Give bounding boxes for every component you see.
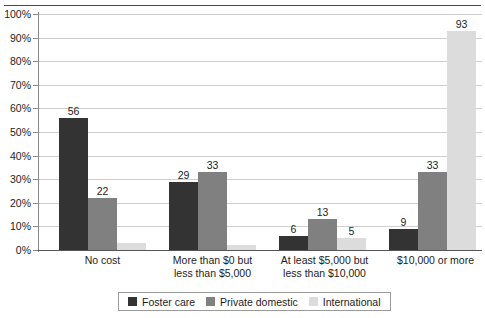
bar-value-foster-care-under-5000: 29 <box>178 169 190 181</box>
bar-value-private-domestic-10000-or-more: 33 <box>427 159 439 171</box>
x-axis-label-5000-to-10000: At least $5,000 but less than $10,000 <box>263 254 386 279</box>
y-tick-mark-10 <box>33 226 38 227</box>
y-tick-mark-40 <box>33 156 38 157</box>
y-tick-label-60: 60% <box>10 102 31 114</box>
x-axis-label-under-5000-line1: More than $0 but <box>154 254 271 267</box>
bar-private-domestic-5000-to-10000: 13 <box>308 219 337 250</box>
y-tick-label-70: 70% <box>10 79 31 91</box>
bar-group-5000-to-10000: 6 13 5 <box>279 14 366 250</box>
legend-label-foster-care: Foster care <box>142 296 195 308</box>
y-tick-mark-80 <box>33 61 38 62</box>
legend-swatch-private-domestic-icon <box>206 297 215 306</box>
bar-international-5000-to-10000: 5 <box>337 238 366 250</box>
bars-layer: 56 22 29 33 <box>39 14 482 250</box>
x-axis-label-no-cost-line1: No cost <box>44 254 161 267</box>
bar-foster-care-10000-or-more: 9 <box>389 229 418 250</box>
legend-item-foster-care[interactable]: Foster care <box>128 296 195 308</box>
y-tick-mark-50 <box>33 132 38 133</box>
bar-value-international-5000-to-10000: 5 <box>349 225 355 237</box>
bar-value-private-domestic-5000-to-10000: 13 <box>317 206 329 218</box>
legend-item-international[interactable]: International <box>309 296 381 308</box>
legend-label-private-domestic: Private domestic <box>220 296 298 308</box>
y-tick-label-0: 0% <box>16 244 31 256</box>
x-axis-label-under-5000-line2: less than $5,000 <box>154 267 271 280</box>
x-axis-label-5000-to-10000-line1: At least $5,000 but <box>263 254 386 267</box>
bar-group-under-5000: 29 33 <box>169 14 256 250</box>
y-tick-mark-20 <box>33 203 38 204</box>
y-tick-label-30: 30% <box>10 173 31 185</box>
bar-value-foster-care-no-cost: 56 <box>68 105 80 117</box>
bar-value-private-domestic-under-5000: 33 <box>207 159 219 171</box>
bar-value-foster-care-5000-to-10000: 6 <box>291 223 297 235</box>
x-axis-line <box>38 250 482 251</box>
y-tick-mark-90 <box>33 38 38 39</box>
y-tick-mark-30 <box>33 179 38 180</box>
bar-international-no-cost <box>117 243 146 250</box>
bar-value-foster-care-10000-or-more: 9 <box>401 216 407 228</box>
bar-international-under-5000 <box>227 245 256 250</box>
bar-private-domestic-10000-or-more: 33 <box>418 172 447 250</box>
bar-private-domestic-no-cost: 22 <box>88 198 117 250</box>
x-axis-label-no-cost: No cost <box>44 254 161 267</box>
y-tick-mark-0 <box>33 250 38 251</box>
plot-area: 100% 90% 80% 70% 60% 50% 40% 30% 20% 10%… <box>38 14 482 250</box>
y-tick-mark-70 <box>33 85 38 86</box>
y-tick-label-100: 100% <box>4 8 31 20</box>
bar-group-no-cost: 56 22 <box>59 14 146 250</box>
bar-value-private-domestic-no-cost: 22 <box>97 185 109 197</box>
legend-swatch-foster-care-icon <box>128 297 137 306</box>
title-divider-rule <box>4 5 481 6</box>
chart-title-clipped <box>4 0 481 4</box>
x-axis-label-5000-to-10000-line2: less than $10,000 <box>263 267 386 280</box>
bar-chart-figure: 100% 90% 80% 70% 60% 50% 40% 30% 20% 10%… <box>0 0 485 318</box>
legend-swatch-international-icon <box>309 297 318 306</box>
y-tick-mark-100 <box>33 14 38 15</box>
x-axis-label-10000-or-more: $10,000 or more <box>377 254 485 267</box>
y-tick-label-10: 10% <box>10 220 31 232</box>
y-tick-label-50: 50% <box>10 126 31 138</box>
bar-foster-care-under-5000: 29 <box>169 182 198 250</box>
x-axis-label-under-5000: More than $0 but less than $5,000 <box>154 254 271 279</box>
y-tick-mark-60 <box>33 108 38 109</box>
x-axis-labels: No cost More than $0 but less than $5,00… <box>39 254 482 284</box>
y-tick-label-80: 80% <box>10 55 31 67</box>
y-tick-label-20: 20% <box>10 197 31 209</box>
y-tick-label-90: 90% <box>10 32 31 44</box>
bar-foster-care-5000-to-10000: 6 <box>279 236 308 250</box>
bar-group-10000-or-more: 9 33 93 <box>389 14 476 250</box>
chart-legend: Foster care Private domestic Internation… <box>118 292 391 311</box>
bar-value-international-10000-or-more: 93 <box>456 18 468 30</box>
x-axis-label-10000-or-more-line1: $10,000 or more <box>377 254 485 267</box>
y-tick-label-40: 40% <box>10 150 31 162</box>
legend-label-international: International <box>323 296 381 308</box>
bar-private-domestic-under-5000: 33 <box>198 172 227 250</box>
bar-international-10000-or-more: 93 <box>447 31 476 251</box>
bar-foster-care-no-cost: 56 <box>59 118 88 250</box>
legend-item-private-domestic[interactable]: Private domestic <box>206 296 298 308</box>
